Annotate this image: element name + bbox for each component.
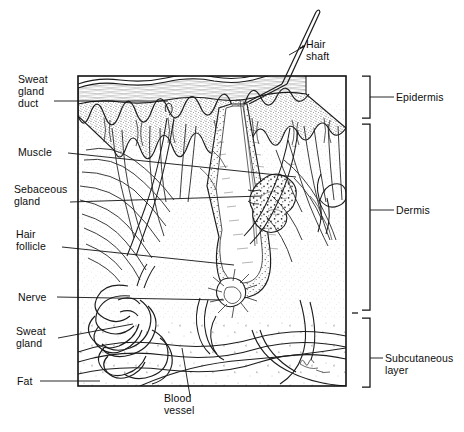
skin-panel <box>78 70 346 386</box>
skin-anatomy-figure: Sweat gland duct Muscle Sebaceous gland … <box>0 0 464 432</box>
label-subcutaneous-layer: Subcutaneous layer <box>385 352 453 376</box>
layer-brackets <box>352 76 370 387</box>
label-sweat-gland: Sweat gland <box>16 325 46 349</box>
label-hair-shaft: Hair shaft <box>306 38 329 62</box>
label-fat: Fat <box>17 375 32 387</box>
label-hair-follicle: Hair follicle <box>16 228 46 252</box>
label-nerve: Nerve <box>18 291 47 303</box>
label-dermis: Dermis <box>396 204 430 216</box>
label-sebaceous-gland: Sebaceous gland <box>14 183 67 207</box>
label-epidermis: Epidermis <box>396 91 444 103</box>
label-blood-vessel: Blood vessel <box>164 392 194 416</box>
label-muscle: Muscle <box>18 146 52 158</box>
label-sweat-gland-duct: Sweat gland duct <box>18 73 48 110</box>
